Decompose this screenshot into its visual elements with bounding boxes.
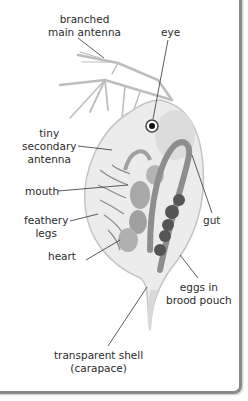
label-line: transparent shell <box>54 349 143 362</box>
label-mouth: mouth <box>25 185 59 198</box>
label-line: feathery <box>24 214 68 227</box>
label-gut: gut <box>203 214 220 227</box>
label-heart: heart <box>48 250 76 263</box>
eye-icon <box>146 120 158 132</box>
label-line: brood pouch <box>166 294 232 307</box>
label-line: (carapace) <box>54 362 143 375</box>
heart-icon <box>118 228 138 252</box>
label-line: legs <box>24 227 68 240</box>
label-eye: eye <box>161 26 180 39</box>
label-line: eggs in <box>166 281 232 294</box>
label-line: secondary <box>22 140 76 153</box>
label-transparent-shell: transparent shell (carapace) <box>54 349 143 375</box>
label-tiny-secondary-antenna: tiny secondary antenna <box>22 127 76 166</box>
label-line: antenna <box>22 153 76 166</box>
label-line: branched <box>48 13 121 26</box>
daphnia-illustration <box>0 0 248 401</box>
label-branched-main-antenna: branched main antenna <box>48 13 121 39</box>
label-line: tiny <box>22 127 76 140</box>
label-eggs-in-brood-pouch: eggs in brood pouch <box>166 281 232 307</box>
label-line: main antenna <box>48 26 121 39</box>
label-feathery-legs: feathery legs <box>24 214 68 240</box>
